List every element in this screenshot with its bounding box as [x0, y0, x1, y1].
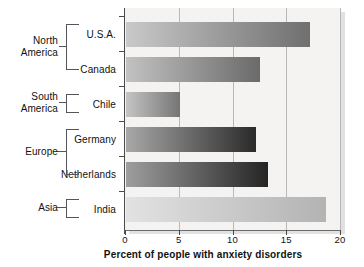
x-tick-label-5: 5: [168, 234, 190, 245]
bar-usa: [126, 22, 310, 47]
region-label-south-america-line1: South: [31, 91, 58, 102]
y-tick-3: [119, 121, 125, 122]
x-tick-label-20: 20: [329, 234, 351, 245]
y-tick-2: [119, 86, 125, 87]
bar-germany: [126, 127, 256, 152]
bar-india: [126, 197, 326, 222]
region-label-north-america: North America: [0, 35, 58, 58]
bracket-stem-asia: [57, 207, 67, 208]
region-label-europe: Europe: [0, 146, 58, 158]
bracket-asia: [66, 199, 79, 218]
y-tick-1: [119, 51, 125, 52]
y-tick-5: [119, 191, 125, 192]
bracket-south-america: [66, 94, 79, 113]
bracket-stem-europe: [57, 151, 67, 152]
region-label-south-america-line2: America: [21, 103, 58, 114]
bar-netherlands: [126, 162, 268, 187]
y-tick-0: [119, 16, 125, 17]
bracket-stem-south-america: [59, 102, 67, 103]
x-axis-title: Percent of people with anxiety disorders: [0, 249, 364, 260]
bar-chart: U.S.A. Canada Chile Germany Netherlands …: [0, 0, 364, 267]
bracket-north-america: [66, 24, 79, 70]
x-tick-label-15: 15: [275, 234, 297, 245]
region-label-south-america: South America: [0, 91, 58, 114]
y-tick-4: [119, 156, 125, 157]
x-tick-label-10: 10: [222, 234, 244, 245]
bar-canada: [126, 57, 260, 82]
gridline-20: [340, 8, 341, 230]
x-tick-label-0: 0: [114, 234, 136, 245]
region-label-asia: Asia: [0, 202, 58, 214]
bracket-europe: [66, 129, 79, 175]
bracket-stem-north-america: [59, 46, 67, 47]
bar-chile: [126, 92, 180, 117]
region-label-north-america-line2: America: [21, 47, 58, 58]
region-label-north-america-line1: North: [33, 35, 58, 46]
